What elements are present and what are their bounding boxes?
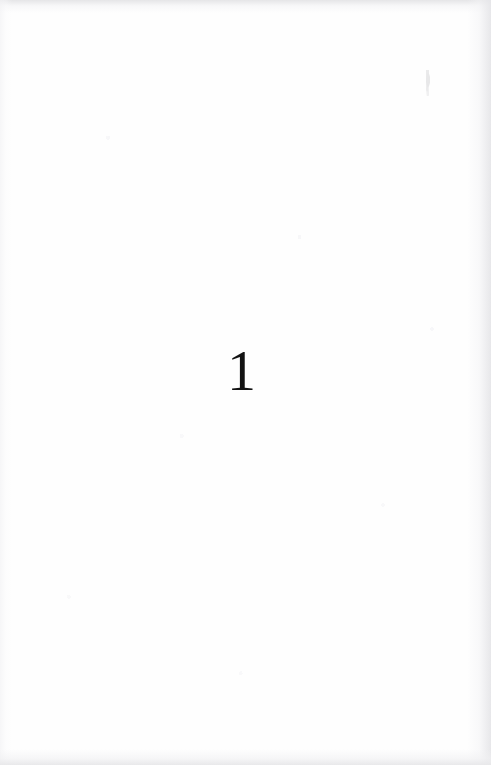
part-number-glyph: 1	[227, 342, 256, 400]
part-number: 1	[0, 342, 491, 400]
scanned-page: 1	[0, 0, 491, 765]
